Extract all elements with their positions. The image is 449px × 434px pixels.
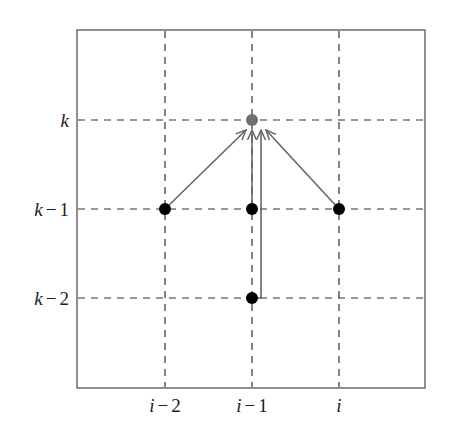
x-label-i-1: i−1: [236, 395, 268, 416]
x-label-i: i: [336, 395, 341, 416]
node-i-2-k-1: [159, 203, 171, 215]
node-i-1-k-1: [246, 203, 258, 215]
target-node: [246, 114, 258, 126]
edge-src3-target: [266, 130, 339, 209]
node-i-1-k-2: [246, 292, 258, 304]
node-i-k-1: [333, 203, 345, 215]
dependency-diagram: k k−1 k−2 i−2 i−1 i: [0, 0, 449, 434]
x-label-i-2: i−2: [149, 395, 181, 416]
y-label-k: k: [61, 110, 70, 131]
y-label-k-2: k−2: [34, 288, 69, 309]
y-label-k-1: k−1: [34, 199, 69, 220]
edge-src1-target: [165, 130, 246, 209]
